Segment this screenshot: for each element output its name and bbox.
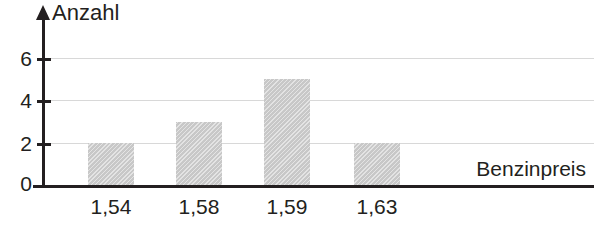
y-tick-label-4: 4 xyxy=(6,90,32,111)
plot-area: 6 4 2 0 1,54 1,58 1,59 1,63 Anzahl Benzi… xyxy=(0,0,594,234)
y-tick-label-0: 0 xyxy=(6,173,32,194)
x-tick-label-1-54: 1,54 xyxy=(66,196,156,217)
x-axis-line xyxy=(33,185,594,188)
x-axis-title: Benzinpreis xyxy=(476,158,586,179)
y-axis-up-arrow-icon xyxy=(36,5,50,20)
bar-chart: 6 4 2 0 1,54 1,58 1,59 1,63 Anzahl Benzi… xyxy=(0,0,594,234)
x-tick-label-1-63: 1,63 xyxy=(332,196,422,217)
gridline-4 xyxy=(44,100,594,101)
bar-1-59 xyxy=(264,79,310,185)
bar-1-58 xyxy=(176,122,222,185)
y-tick-label-2: 2 xyxy=(6,133,32,154)
x-tick-label-1-58: 1,58 xyxy=(154,196,244,217)
x-tick-label-1-59: 1,59 xyxy=(242,196,332,217)
gridline-6 xyxy=(44,58,594,59)
y-tick-4 xyxy=(37,100,51,103)
y-tick-6 xyxy=(37,58,51,61)
bar-1-63 xyxy=(354,143,400,185)
bar-1-54 xyxy=(88,143,134,185)
y-tick-2 xyxy=(37,143,51,146)
y-tick-label-6: 6 xyxy=(6,48,32,69)
y-axis-title: Anzahl xyxy=(52,2,119,24)
